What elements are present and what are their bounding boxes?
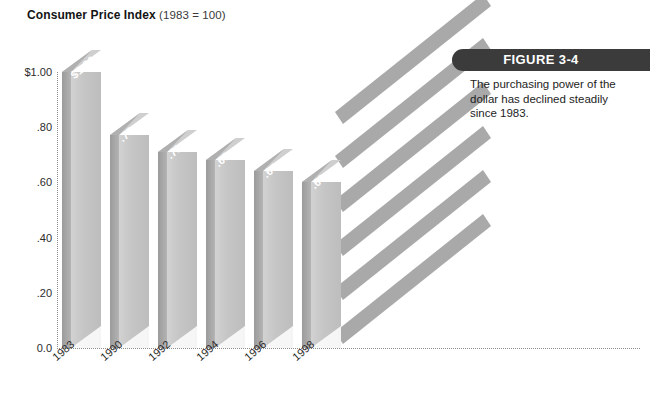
figure-caption: The purchasing power of the dollar has d… — [470, 77, 635, 121]
bar-foot-highlight — [263, 326, 293, 348]
figure-banner: FIGURE 3-4 — [452, 49, 650, 71]
bar-side-face — [110, 135, 119, 348]
bar-side-face — [158, 152, 167, 348]
bar — [62, 50, 101, 348]
bar-front-face — [215, 160, 245, 348]
bar-foot-highlight — [167, 326, 197, 348]
bar-side-face — [62, 72, 71, 348]
bar-side-face — [254, 171, 263, 348]
bar — [110, 113, 149, 348]
bar-foot-highlight — [119, 326, 149, 348]
bar-front-face — [71, 72, 101, 348]
bar-foot-highlight — [215, 326, 245, 348]
bar — [254, 149, 293, 348]
bar-front-face — [311, 182, 341, 348]
bar-side-face — [302, 182, 311, 348]
bar — [302, 160, 341, 348]
bar-front-face — [167, 152, 197, 348]
bar-front-face — [263, 171, 293, 348]
bar-side-face — [206, 160, 215, 348]
bar — [206, 138, 245, 348]
bar-foot-highlight — [71, 326, 101, 348]
bar-front-face — [119, 135, 149, 348]
bar — [158, 130, 197, 348]
bar-foot-highlight — [311, 326, 341, 348]
figure-banner-label: FIGURE 3-4 — [452, 49, 630, 71]
